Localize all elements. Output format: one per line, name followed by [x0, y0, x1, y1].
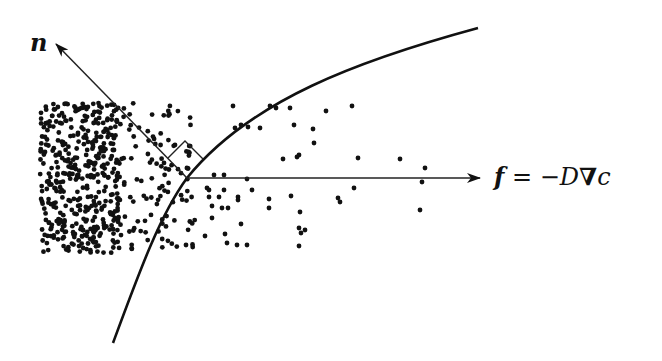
normal-label: n	[30, 28, 47, 57]
flux-equation: = −D	[504, 163, 579, 191]
interface-curve	[113, 28, 478, 343]
concentration-symbol: c	[597, 163, 610, 191]
flux-symbol: f	[494, 162, 504, 191]
flux-label: f = −D∇c	[494, 162, 611, 191]
nabla-symbol: ∇	[579, 162, 597, 191]
